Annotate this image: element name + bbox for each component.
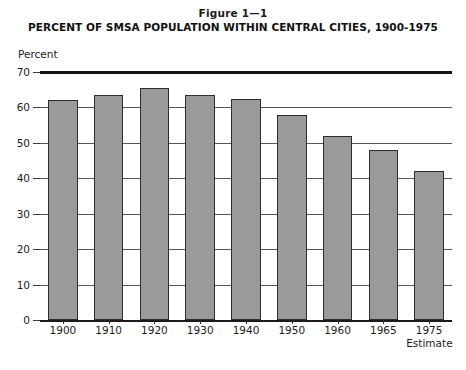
bar-1965 [369,150,399,320]
bar-1960 [323,136,353,320]
y-axis-tick-label: 0 [23,315,30,326]
bar-1920 [140,88,170,320]
y-tick-10 [33,285,40,286]
y-tick-30 [33,214,40,215]
x-axis-tick-label-1965: 1965 [360,324,406,337]
y-axis-tick-label: 30 [17,208,30,219]
x-axis-tick-label-1960: 1960 [315,324,361,337]
y-axis-tick-label: 20 [17,244,30,255]
bar-series [40,72,452,320]
x-axis-tick-label-1910: 1910 [86,324,132,337]
y-tick-50 [33,143,40,144]
x-axis-tick-label-1940: 1940 [223,324,269,337]
bar-1940 [231,99,261,320]
y-tick-0 [33,320,40,321]
bar-chart: 010203040506070 190019101920193019401950… [0,0,466,370]
bar-1900 [48,100,78,320]
y-axis-tick-label: 40 [17,173,30,184]
plot-area: 010203040506070 [40,72,452,320]
y-axis-tick-label: 50 [17,137,30,148]
x-axis-labels: 190019101920193019401950196019651975Esti… [40,324,452,364]
y-axis-tick-label: 10 [17,279,30,290]
y-tick-40 [33,178,40,179]
x-axis-tick-label-1920: 1920 [132,324,178,337]
bar-1930 [185,95,215,320]
x-axis-tick-label-1900: 1900 [40,324,86,337]
y-axis-tick-label: 60 [17,102,30,113]
bar-1910 [94,95,124,320]
bar-1975 [414,171,444,320]
x-axis-tick-label-1950: 1950 [269,324,315,337]
bar-1950 [277,115,307,320]
x-axis-estimate-note: Estimate [406,337,452,350]
y-tick-70 [33,72,40,73]
x-axis-tick-label-1975: 1975Estimate [406,324,452,350]
y-axis-tick-label: 70 [17,67,30,78]
y-tick-20 [33,249,40,250]
x-axis-tick-label-1930: 1930 [177,324,223,337]
y-tick-60 [33,107,40,108]
